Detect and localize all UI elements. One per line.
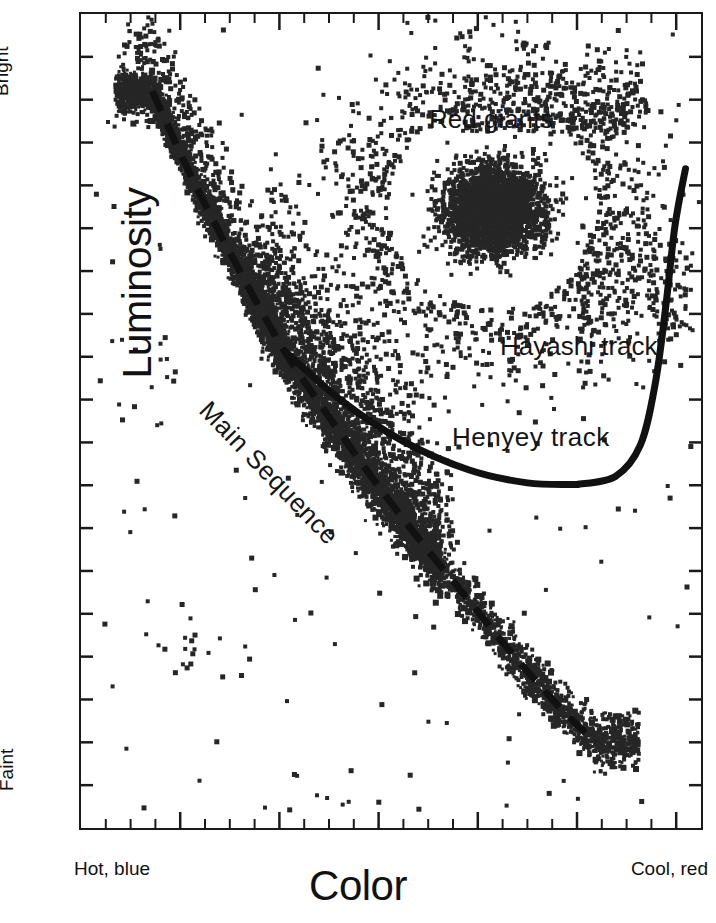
hr-diagram-figure: Luminosity Bright Faint Color Hot, blue … [0,0,716,923]
annotation-red-giants: Red giants [429,104,553,135]
annotation-henyey-track: Henyey track [452,422,610,453]
y-axis-title: Luminosity [109,118,165,448]
data-points [94,15,701,813]
scatter-plot-svg [81,14,701,828]
x-axis-left-label: Hot, blue [74,858,150,880]
x-axis-right-label: Cool, red [631,858,708,880]
y-axis-bottom-label: Faint [0,765,98,791]
plot-area [79,12,703,830]
annotation-hayashi-track: Hayashi track [500,331,658,362]
y-axis-top-label: Bright [0,70,99,96]
